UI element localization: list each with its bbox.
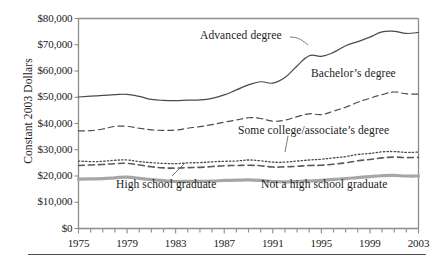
x-tick-label: 1995 [296, 237, 346, 249]
x-tick-label: 2003 [394, 237, 439, 249]
annotation-leader-lines [172, 37, 308, 176]
x-tick-label: 1991 [248, 237, 298, 249]
y-tick-label: $20,000 [6, 169, 73, 181]
series-label-not-high-school-graduate: Not a high school graduate [261, 178, 388, 190]
series-label-bachelors-degree: Bachelor’s degree [311, 67, 396, 79]
series-label-some-college: Some college/associate’s degree [238, 124, 389, 136]
x-tick-label: 1979 [102, 237, 152, 249]
series-group [79, 31, 419, 182]
series-line-high-school-graduate [79, 157, 419, 168]
leader-high-school-graduate [172, 163, 185, 176]
x-tick-label: 1983 [151, 237, 201, 249]
y-tick-label: $80,000 [6, 12, 73, 24]
chart-figure: Constant 2003 Dollars $0$10,000$20,000$3… [0, 0, 439, 264]
y-tick-label: $30,000 [6, 143, 73, 155]
leader-some-college [285, 136, 288, 152]
leader-advanced-degree [290, 37, 308, 45]
x-tick-label: 1999 [345, 237, 395, 249]
x-tick-label: 1975 [54, 237, 104, 249]
series-label-high-school-graduate: High school graduate [116, 178, 216, 190]
y-tick-label: $60,000 [6, 64, 73, 76]
y-tick-label: $40,000 [6, 117, 73, 129]
series-line-some-college-associate-s-degree [79, 152, 419, 164]
y-tick-label: $70,000 [6, 38, 73, 50]
series-label-advanced-degree: Advanced degree [200, 29, 282, 41]
footer-divider [28, 254, 426, 255]
y-tick-label: $10,000 [6, 195, 73, 207]
y-tick-label: $0 [6, 222, 73, 234]
series-line-advanced-degree [79, 31, 419, 101]
y-tick-label: $50,000 [6, 90, 73, 102]
x-tick-label: 1987 [199, 237, 249, 249]
